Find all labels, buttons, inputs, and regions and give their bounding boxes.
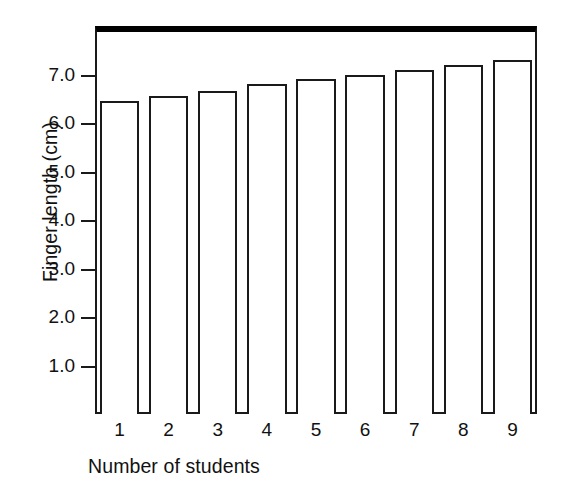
y-axis-tick-label: 6.0: [15, 113, 75, 132]
bar: [493, 60, 532, 414]
bar: [149, 96, 188, 414]
x-axis-tick-label: 4: [247, 420, 287, 439]
x-axis-tick-label: 6: [345, 420, 385, 439]
x-axis-tick-label: 8: [443, 420, 483, 439]
y-axis-tick-label: 5.0: [15, 162, 75, 181]
bar: [100, 101, 139, 414]
y-axis-tick-label: 3.0: [15, 259, 75, 278]
y-axis-tick-label: 7.0: [15, 65, 75, 84]
bar: [444, 65, 483, 414]
bar: [198, 91, 237, 414]
x-axis-tick-label: 5: [296, 420, 336, 439]
y-axis-tick-mark: [81, 220, 95, 222]
bar: [247, 84, 286, 414]
x-axis-tick-label: 9: [492, 420, 532, 439]
y-axis-tick-label: 1.0: [15, 356, 75, 375]
y-axis-tick-label: 4.0: [15, 210, 75, 229]
y-axis-tick-mark: [81, 172, 95, 174]
x-axis-title: Number of students: [88, 455, 260, 478]
y-axis-tick-mark: [81, 269, 95, 271]
y-axis-tick-mark: [81, 123, 95, 125]
x-axis-tick-label: 2: [149, 420, 189, 439]
x-axis-tick-label: 3: [198, 420, 238, 439]
y-axis-tick-label: 2.0: [15, 307, 75, 326]
bar: [395, 70, 434, 414]
x-axis-tick-label: 7: [394, 420, 434, 439]
y-axis-tick-mark: [81, 317, 95, 319]
y-axis-tick-mark: [81, 75, 95, 77]
y-axis-tick-mark: [81, 366, 95, 368]
x-axis-tick-label: 1: [100, 420, 140, 439]
bar: [296, 79, 335, 414]
bar-chart-figure: Finger length (cm) Number of students 1.…: [0, 0, 569, 501]
bar: [345, 75, 384, 415]
